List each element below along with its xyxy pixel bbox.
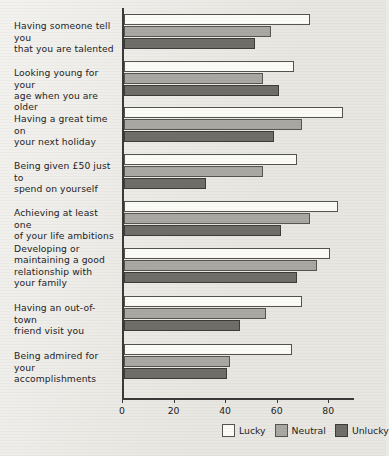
bar-unlucky xyxy=(124,178,206,189)
bar-neutral xyxy=(124,213,310,224)
bar-lucky xyxy=(124,14,310,25)
x-tick-label: 60 xyxy=(271,405,283,416)
x-tick xyxy=(122,398,123,403)
category-label: Developing ormaintaining a goodrelations… xyxy=(14,243,118,288)
category-label-line: maintaining a good xyxy=(14,254,118,265)
lucky-swatch xyxy=(222,424,235,437)
bar-unlucky xyxy=(124,320,240,331)
x-tick-label: 20 xyxy=(168,405,180,416)
x-axis-line xyxy=(122,398,354,400)
bar-unlucky xyxy=(124,368,227,379)
category-label-line: of your life ambitions xyxy=(14,230,118,241)
bar-neutral xyxy=(124,260,317,271)
bar-unlucky xyxy=(124,38,255,49)
bar-lucky xyxy=(124,154,297,165)
legend-item-lucky[interactable]: Lucky xyxy=(222,424,266,437)
bar-lucky xyxy=(124,201,338,212)
bar-lucky xyxy=(124,344,292,355)
category-label-line: Achieving at least one xyxy=(14,207,118,229)
category-label: Looking young for yourage when you are o… xyxy=(14,67,118,112)
bar-neutral xyxy=(124,26,271,37)
x-tick xyxy=(174,398,175,403)
bar-lucky xyxy=(124,107,343,118)
bar-unlucky xyxy=(124,225,281,236)
category-label: Having someone tell youthat you are tale… xyxy=(14,20,118,54)
bar-neutral xyxy=(124,166,263,177)
x-tick xyxy=(328,398,329,403)
category-label: Having an out-of-townfriend visit you xyxy=(14,302,118,336)
legend-label: Lucky xyxy=(239,425,266,436)
legend-item-neutral[interactable]: Neutral xyxy=(275,424,326,437)
legend-label: Neutral xyxy=(292,425,326,436)
category-label: Being given £50 just tospend on yourself xyxy=(14,160,118,194)
category-label: Achieving at least oneof your life ambit… xyxy=(14,207,118,241)
neutral-swatch xyxy=(275,424,288,437)
bar-lucky xyxy=(124,61,294,72)
category-label-line: Being given £50 just to xyxy=(14,160,118,182)
category-label-line: your next holiday xyxy=(14,136,118,147)
category-label-line: Being admired for your xyxy=(14,350,118,372)
x-tick xyxy=(277,398,278,403)
bar-neutral xyxy=(124,308,266,319)
bar-lucky xyxy=(124,248,330,259)
x-tick xyxy=(225,398,226,403)
category-label-line: friend visit you xyxy=(14,325,118,336)
category-label: Being admired for youraccomplishments xyxy=(14,350,118,384)
bar-unlucky xyxy=(124,272,297,283)
x-tick-label: 80 xyxy=(322,405,334,416)
category-label: Having a great time onyour next holiday xyxy=(14,113,118,147)
unlucky-swatch xyxy=(335,424,348,437)
bar-unlucky xyxy=(124,131,274,142)
legend-label: Unlucky xyxy=(352,425,389,436)
plot-area: 020406080 xyxy=(122,8,380,398)
legend-item-unlucky[interactable]: Unlucky xyxy=(335,424,389,437)
category-label-line: Having someone tell you xyxy=(14,20,118,42)
category-label-line: Having an out-of-town xyxy=(14,302,118,324)
category-label-line: Developing or xyxy=(14,243,118,254)
category-label-line: spend on yourself xyxy=(14,183,118,194)
x-tick-label: 40 xyxy=(219,405,231,416)
category-label-line: Having a great time on xyxy=(14,113,118,135)
x-tick-label: 0 xyxy=(119,405,125,416)
category-label-line: age when you are older xyxy=(14,90,118,112)
category-label-line: relationship with xyxy=(14,266,118,277)
category-label-line: accomplishments xyxy=(14,373,118,384)
category-label-line: that you are talented xyxy=(14,43,118,54)
bar-neutral xyxy=(124,73,263,84)
legend: LuckyNeutralUnlucky xyxy=(222,424,389,437)
bar-lucky xyxy=(124,296,302,307)
bar-neutral xyxy=(124,356,230,367)
category-label-line: your family xyxy=(14,277,118,288)
bar-neutral xyxy=(124,119,302,130)
category-label-line: Looking young for your xyxy=(14,67,118,89)
bar-unlucky xyxy=(124,85,279,96)
